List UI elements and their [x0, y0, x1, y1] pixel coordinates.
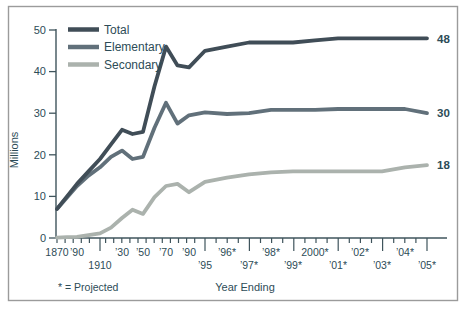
y-tick-label: 0	[40, 232, 46, 244]
end-label-secondary: 18	[437, 159, 450, 171]
legend-label-total: Total	[104, 23, 129, 37]
x-tick-label: ’30	[115, 246, 129, 258]
y-tick-label: 20	[34, 149, 46, 161]
x-axis-title: Year Ending	[215, 281, 275, 293]
plot-area: 010203040501870’901910’30’50’70’90’95’96…	[34, 24, 447, 271]
x-tick-label: ’05*	[418, 259, 436, 271]
x-tick-label: ’98*	[262, 246, 280, 258]
x-tick-label: 1870	[45, 246, 69, 258]
x-tick-label: ’02*	[351, 246, 369, 258]
x-tick-label: ’04*	[396, 246, 414, 258]
legend: Total Elementary Secondary	[68, 23, 165, 72]
x-tick-label: ’01*	[329, 259, 347, 271]
x-tick-label: ’99*	[284, 259, 302, 271]
legend-label-secondary: Secondary	[104, 58, 161, 72]
y-axis-title: Millions	[8, 131, 20, 168]
y-tick-label: 50	[34, 24, 46, 36]
end-label-elementary: 30	[437, 107, 450, 119]
x-tick-label: ’50	[136, 246, 150, 258]
x-tick-label: ’90	[70, 246, 84, 258]
y-tick-label: 40	[34, 65, 46, 77]
enrollment-chart-figure: 010203040501870’901910’30’50’70’90’95’96…	[0, 0, 468, 311]
legend-label-elementary: Elementary	[104, 40, 165, 54]
projected-footnote: * = Projected	[58, 281, 119, 293]
x-tick-label: ’70	[159, 246, 173, 258]
x-tick-label: ’97*	[240, 259, 258, 271]
end-label-total: 48	[437, 33, 450, 45]
x-tick-label: ’96*	[218, 246, 236, 258]
y-tick-label: 30	[34, 107, 46, 119]
x-tick-label: 1910	[88, 259, 112, 271]
x-tick-label: ’90	[182, 246, 196, 258]
x-tick-label: ’95	[198, 259, 212, 271]
x-tick-label: 2000*	[301, 246, 328, 258]
y-tick-label: 10	[34, 190, 46, 202]
chart-canvas: 010203040501870’901910’30’50’70’90’95’96…	[0, 0, 468, 311]
secondary-line	[57, 165, 427, 237]
elementary-line	[57, 103, 427, 209]
x-tick-label: ’03*	[373, 259, 391, 271]
